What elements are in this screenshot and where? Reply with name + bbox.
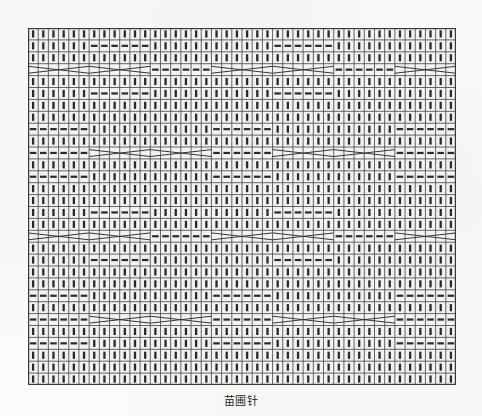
knitting-chart-grid[interactable] bbox=[28, 28, 456, 385]
chart-page: 苗圃针 bbox=[0, 0, 482, 416]
chart-svg-canvas bbox=[28, 28, 456, 385]
chart-caption: 苗圃针 bbox=[0, 392, 482, 408]
